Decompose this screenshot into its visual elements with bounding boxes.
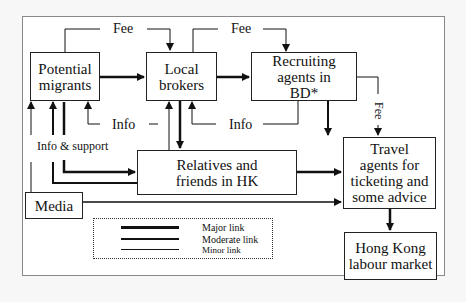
legend-label-moderate: Moderate link xyxy=(202,234,258,245)
node-potential-migrants: Potential migrants xyxy=(30,52,100,101)
legend: Major link Moderate link Minor link xyxy=(93,218,273,259)
node-label: Travel agents for ticketing and some adv… xyxy=(350,141,430,205)
node-relatives-friends: Relatives and friends in HK xyxy=(137,150,297,195)
node-local-brokers: Local brokers xyxy=(146,52,217,101)
node-label: Media xyxy=(35,198,73,214)
node-recruiting-agents: Recruiting agents in BD* xyxy=(251,52,357,101)
edge-label-fee-vertical: Fee xyxy=(372,102,386,119)
edge-label-info: Info xyxy=(229,118,252,132)
edge-label-info: Info xyxy=(112,118,135,132)
node-label: Potential migrants xyxy=(31,61,99,93)
node-label: Local brokers xyxy=(157,61,207,93)
legend-line-moderate xyxy=(121,238,179,240)
node-label: Relatives and friends in HK xyxy=(162,157,272,189)
node-hk-labour-market: Hong Kong labour market xyxy=(344,232,437,280)
legend-label-minor: Minor link xyxy=(202,245,241,255)
legend-line-major xyxy=(121,226,179,229)
edge-label-info-support: Info & support xyxy=(35,139,110,153)
node-label: Recruiting agents in BD* xyxy=(264,53,344,101)
legend-line-minor xyxy=(121,249,179,250)
node-label: Hong Kong labour market xyxy=(349,240,433,272)
node-media: Media xyxy=(25,192,83,219)
edge-label-fee: Fee xyxy=(113,22,133,36)
node-travel-agents: Travel agents for ticketing and some adv… xyxy=(343,137,436,209)
edge-label-fee: Fee xyxy=(231,22,251,36)
legend-label-major: Major link xyxy=(202,222,245,233)
